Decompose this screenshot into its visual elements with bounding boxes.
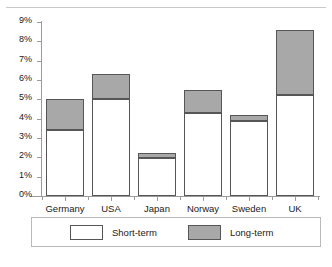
x-axis-tick-mark <box>295 197 296 201</box>
bar-group[interactable] <box>276 22 314 196</box>
bar-group[interactable] <box>138 22 176 196</box>
bar-segment-long-term[interactable] <box>46 99 84 130</box>
bar-group[interactable] <box>46 22 84 196</box>
x-axis-category-label: USA <box>88 203 134 214</box>
page-header-strip <box>0 0 332 9</box>
x-axis-boundary-tick <box>134 197 135 200</box>
bar-segment-long-term[interactable] <box>230 115 268 121</box>
chart-legend: Short-term Long-term <box>31 217 321 247</box>
y-axis-tick-label: 7% <box>19 55 32 64</box>
y-axis-tick-label: 5% <box>19 93 32 102</box>
plot-area <box>42 22 318 196</box>
legend-label-long-term: Long-term <box>230 227 273 238</box>
x-axis-boundary-tick <box>180 197 181 200</box>
bar-group[interactable] <box>230 22 268 196</box>
legend-swatch-long-term-icon <box>188 225 221 240</box>
bar-group[interactable] <box>184 22 222 196</box>
x-axis-boundary-tick <box>88 197 89 200</box>
x-axis-boundary-tick <box>318 197 319 200</box>
y-axis-tick-label: 2% <box>19 151 32 160</box>
bar-group[interactable] <box>92 22 130 196</box>
bar-segment-short-term[interactable] <box>184 113 222 196</box>
bar-segment-short-term[interactable] <box>276 95 314 196</box>
y-axis-tick-label: 8% <box>19 35 32 44</box>
x-axis-tick-mark <box>65 197 66 201</box>
x-axis-tick-mark <box>249 197 250 201</box>
bar-segment-short-term[interactable] <box>138 158 176 196</box>
legend-label-short-term: Short-term <box>112 227 157 238</box>
bar-segment-short-term[interactable] <box>230 121 268 196</box>
x-axis-boundary-tick <box>226 197 227 200</box>
x-axis-tick-mark <box>111 197 112 201</box>
x-axis-category-label: Norway <box>180 203 226 214</box>
bar-segment-long-term[interactable] <box>184 90 222 113</box>
legend-item-long-term: Long-term <box>188 225 273 240</box>
bar-segment-long-term[interactable] <box>138 153 176 158</box>
x-axis-category-label: Germany <box>42 203 88 214</box>
y-axis-tick-label: 0% <box>19 190 32 199</box>
x-axis-category-label: UK <box>272 203 318 214</box>
bar-segment-long-term[interactable] <box>92 74 130 99</box>
y-axis-tick-label: 4% <box>19 113 32 122</box>
bar-segment-long-term[interactable] <box>276 30 314 96</box>
legend-swatch-short-term-icon <box>70 225 103 240</box>
x-axis-tick-mark <box>203 197 204 201</box>
y-axis-tick-label: 6% <box>19 74 32 83</box>
y-axis-tick-label: 3% <box>19 132 32 141</box>
y-axis-tick-label: 1% <box>19 171 32 180</box>
legend-item-short-term: Short-term <box>70 225 157 240</box>
x-axis-line <box>30 196 320 197</box>
bar-segment-short-term[interactable] <box>46 130 84 196</box>
x-axis-category-label: Sweden <box>226 203 272 214</box>
x-axis-category-label: Japan <box>134 203 180 214</box>
x-axis-boundary-tick <box>42 197 43 200</box>
x-axis-tick-mark <box>157 197 158 201</box>
x-axis-boundary-tick <box>272 197 273 200</box>
y-axis-tick-label: 9% <box>19 16 32 25</box>
bar-segment-short-term[interactable] <box>92 99 130 196</box>
header-divider-rule <box>6 7 326 8</box>
